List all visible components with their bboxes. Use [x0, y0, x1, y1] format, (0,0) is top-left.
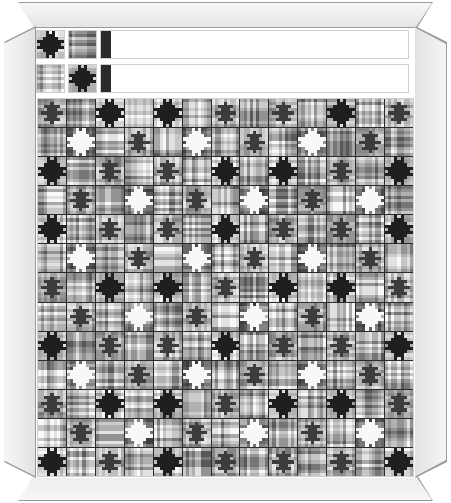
field-block-r8-c8: [269, 332, 297, 360]
quilt-cell: [121, 357, 124, 360]
field-block-r7-c2: [96, 303, 124, 331]
quilt-cell: [323, 240, 326, 243]
quilt-cell: [323, 124, 326, 127]
quilt-cell: [150, 444, 153, 447]
field-block-r2-c0: [38, 157, 66, 185]
field-block-r5-c8: [269, 244, 297, 272]
field-block-r2-c3: [125, 157, 153, 185]
quilt-cell: [352, 211, 355, 214]
quilt-cell: [121, 240, 124, 243]
field-block-r8-c12: [385, 332, 413, 360]
field-block-r8-c0: [38, 332, 66, 360]
field-block-r2-c11: [356, 157, 384, 185]
quilt-cell: [323, 327, 326, 330]
field-block-r12-c7: [240, 448, 268, 476]
field-block-r1-c9: [298, 128, 326, 156]
quilt-cell: [410, 182, 413, 185]
quilt-cell: [207, 386, 210, 389]
field-block-r5-c1: [67, 244, 95, 272]
quilt-cell: [207, 444, 210, 447]
quilt-cell: [381, 240, 384, 243]
quilt-cell: [92, 124, 95, 127]
quilt-cell: [61, 55, 64, 58]
quilt-cell: [92, 444, 95, 447]
field-block-r7-c11: [356, 303, 384, 331]
quilt-cell: [121, 415, 124, 418]
quilt-cell: [323, 153, 326, 156]
quilt-cell: [410, 124, 413, 127]
quilt-cell: [179, 211, 182, 214]
quilt-cell: [294, 298, 297, 301]
quilt-cell: [63, 415, 66, 418]
sample-band: [100, 64, 409, 93]
quilt-cell: [323, 211, 326, 214]
field-block-r8-c4: [154, 332, 182, 360]
field-block-r3-c8: [269, 186, 297, 214]
quilt-cell: [294, 473, 297, 476]
quilt-cell: [294, 182, 297, 185]
field-block-r4-c0: [38, 215, 66, 243]
field-block-r0-c1: [67, 99, 95, 127]
field-block-r5-c12: [385, 244, 413, 272]
quilt-cell: [323, 473, 326, 476]
field-block-r1-c4: [154, 128, 182, 156]
quilt-cell: [294, 211, 297, 214]
quilt-cell: [236, 415, 239, 418]
quilt-cell: [63, 240, 66, 243]
quilt-cell: [265, 269, 268, 272]
field-block-r11-c7: [240, 419, 268, 447]
quilt-cell: [381, 444, 384, 447]
field-block-r2-c2: [96, 157, 124, 185]
quilt-cell: [236, 240, 239, 243]
frame-bottom-rail: [0, 475, 451, 501]
field-block-r12-c6: [212, 448, 240, 476]
quilt-cell: [352, 473, 355, 476]
field-block-r4-c8: [269, 215, 297, 243]
quilt-cell: [92, 357, 95, 360]
quilt-cell: [381, 269, 384, 272]
field-block-r6-c7: [240, 273, 268, 301]
field-block-r10-c7: [240, 390, 268, 418]
quilt-cell: [236, 124, 239, 127]
field-block-r0-c6: [212, 99, 240, 127]
quilt-cell: [121, 153, 124, 156]
field-block-r9-c8: [269, 361, 297, 389]
field-block-r10-c6: [212, 390, 240, 418]
quilt-cell: [179, 240, 182, 243]
field-block-r10-c5: [183, 390, 211, 418]
quilt-cell: [381, 386, 384, 389]
quilt-cell: [63, 357, 66, 360]
field-block-r0-c3: [125, 99, 153, 127]
quilt-cell: [352, 182, 355, 185]
quilt-cell: [236, 386, 239, 389]
quilt-cell: [150, 240, 153, 243]
quilt-cell: [323, 386, 326, 389]
field-block-r5-c9: [298, 244, 326, 272]
field-block-r2-c9: [298, 157, 326, 185]
quilt-cell: [92, 182, 95, 185]
field-block-r11-c2: [96, 419, 124, 447]
quilt-cell: [63, 327, 66, 330]
field-block-r10-c4: [154, 390, 182, 418]
field-block-r2-c10: [327, 157, 355, 185]
field-block-r11-c1: [67, 419, 95, 447]
quilt-cell: [294, 444, 297, 447]
quilt-cell: [410, 415, 413, 418]
field-block-r8-c6: [212, 332, 240, 360]
field-block-r6-c4: [154, 273, 182, 301]
field-block-r8-c5: [183, 332, 211, 360]
quilt-cell: [92, 473, 95, 476]
field-block-r9-c12: [385, 361, 413, 389]
field-block-r6-c6: [212, 273, 240, 301]
field-block-r9-c10: [327, 361, 355, 389]
field-block-r3-c10: [327, 186, 355, 214]
field-block-r1-c2: [96, 128, 124, 156]
field-block-r5-c11: [356, 244, 384, 272]
quilt-cell: [236, 444, 239, 447]
quilt-cell: [294, 327, 297, 330]
field-block-r1-c1: [67, 128, 95, 156]
field-block-r7-c10: [327, 303, 355, 331]
quilt-cell: [236, 269, 239, 272]
field-block-r5-c4: [154, 244, 182, 272]
field-block-r6-c2: [96, 273, 124, 301]
